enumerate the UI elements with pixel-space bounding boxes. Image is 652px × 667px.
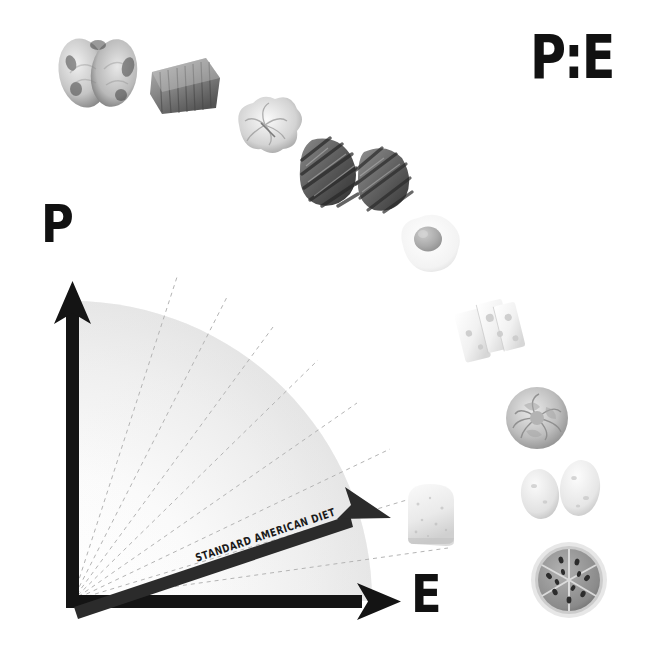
food-artichoke: [504, 385, 570, 451]
food-fried-egg: [396, 212, 462, 274]
food-swiss-cheese-slices: [455, 298, 527, 364]
pe-diagram-canvas: P:E P E STANDARD AMERICAN DIET: [0, 0, 652, 667]
food-leafy-greens: [231, 91, 303, 157]
food-potatoes: [518, 458, 604, 520]
x-axis-label: E: [411, 568, 441, 620]
food-steak-roast: [146, 52, 224, 118]
food-grilled-shellfish: [58, 33, 142, 111]
food-bread-slice: [400, 480, 462, 546]
food-grilled-steak-left: [296, 136, 362, 208]
food-watermelon: [529, 540, 609, 620]
page-title: P:E: [530, 27, 613, 87]
gradient-fan: [72, 301, 372, 601]
food-grilled-steak-right: [354, 144, 416, 214]
y-axis-label: P: [41, 198, 73, 250]
